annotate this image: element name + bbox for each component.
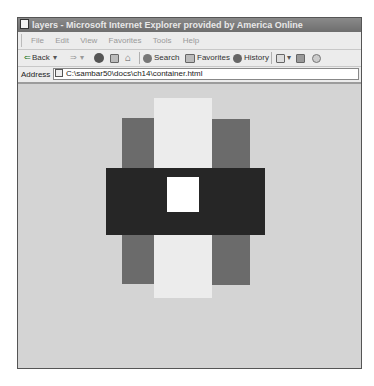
back-arrow-icon: ⇐ [24,50,31,66]
menu-bar: File Edit View Favorites Tools Help [18,32,361,50]
favorites-icon [185,54,195,63]
toolbar-separator [139,52,140,64]
menu-file[interactable]: File [31,32,44,49]
window-title: layers - Microsoft Internet Explorer pro… [32,20,303,30]
print-icon [296,54,305,63]
menu-tools[interactable]: Tools [153,32,172,49]
ie-app-icon [20,19,29,29]
white-square-layer [167,177,199,212]
mail-dropdown-icon[interactable]: ▾ [287,50,291,66]
history-label: History [244,50,269,66]
history-button[interactable]: History [233,50,269,66]
history-icon [233,54,242,63]
stop-button[interactable] [94,50,106,66]
home-icon: ⌂ [125,50,131,66]
favorites-button[interactable]: Favorites [185,50,230,66]
forward-dropdown-icon[interactable]: ▾ [80,50,84,66]
messenger-icon [312,54,321,63]
search-label: Search [154,50,179,66]
address-url[interactable]: C:\sambar50\docs\ch14\container.html [66,69,203,78]
stop-icon [94,53,104,63]
menu-edit[interactable]: Edit [55,32,69,49]
title-bar: layers - Microsoft Internet Explorer pro… [18,18,361,32]
print-button[interactable] [296,50,307,66]
address-input[interactable]: C:\sambar50\docs\ch14\container.html [53,68,359,80]
forward-arrow-icon: ⇒ [70,50,77,66]
mail-icon [276,54,285,63]
toolbar-separator [271,52,272,64]
standard-toolbar: ⇐ Back ▾ ⇒ ▾ ⌂ Search Favorites History [18,50,361,67]
menu-favorites[interactable]: Favorites [109,32,142,49]
search-button[interactable]: Search [143,50,179,66]
menu-view[interactable]: View [80,32,97,49]
mail-button[interactable]: ▾ [276,50,291,66]
refresh-icon [110,54,119,63]
messenger-button[interactable] [312,50,323,66]
address-label: Address [21,69,50,80]
back-dropdown-icon[interactable]: ▾ [53,50,57,66]
page-icon [55,69,63,77]
favorites-label: Favorites [197,50,230,66]
back-button[interactable]: ⇐ Back ▾ [24,50,57,66]
search-icon [143,54,152,63]
refresh-button[interactable] [110,50,121,66]
home-button[interactable]: ⌂ [125,50,131,66]
forward-button[interactable]: ⇒ ▾ [70,50,84,66]
address-bar: Address C:\sambar50\docs\ch14\container.… [18,67,361,83]
back-label: Back [32,50,50,66]
menu-help[interactable]: Help [183,32,199,49]
